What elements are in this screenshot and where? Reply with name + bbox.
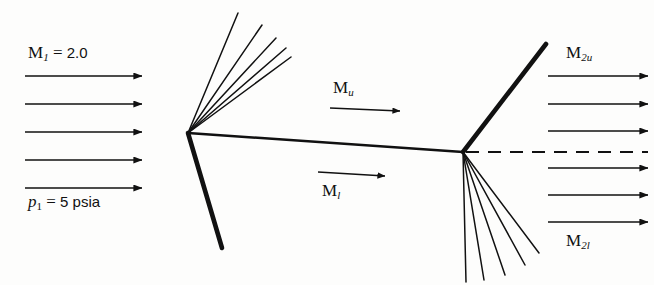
lower-mach-label: Ml [322, 182, 340, 199]
inlet-mach-label: M1 = 2.0 [28, 44, 88, 61]
upper-flow-arrow [330, 108, 400, 111]
expansion-wave [463, 152, 505, 275]
trailing-edge-expansion-fan [463, 152, 539, 282]
expansion-wave [188, 38, 276, 133]
supersonic-airfoil-diagram: M1 = 2.0 p1 = 5 psia Mu Ml M2u M2l [0, 0, 654, 285]
inlet-pressure-label: p1 = 5 psia [28, 193, 100, 210]
exit-upper-mach-label: M2u [566, 44, 592, 61]
leading-edge-expansion-fan [188, 13, 291, 133]
outlet-flow-arrows [548, 76, 648, 222]
trailing-edge-oblique-shock [463, 44, 546, 152]
expansion-wave [463, 152, 539, 253]
inlet-pressure-units: psia [73, 193, 101, 210]
upper-mach-label: Mu [333, 79, 354, 96]
leading-edge-oblique-shock [188, 133, 222, 248]
inlet-flow-arrows [25, 76, 142, 188]
airfoil-upper-surface [188, 133, 463, 152]
lower-flow-arrow [318, 172, 385, 176]
inlet-mach-value: 2.0 [67, 44, 88, 61]
exit-lower-mach-label: M2l [566, 232, 590, 249]
diagram-canvas [0, 0, 654, 285]
